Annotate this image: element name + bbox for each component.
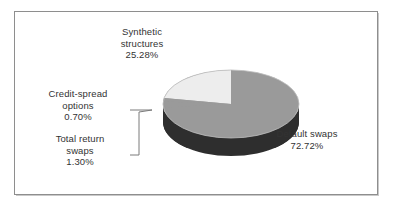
slice-label-total-return-swaps: Total return swaps 1.30% — [28, 133, 132, 168]
slice-label-line: options — [24, 100, 132, 112]
slice-label-line: swaps — [28, 145, 132, 157]
slice-label-credit-spread-options: Credit-spread options 0.70% — [24, 88, 132, 123]
slice-value-label: 25.28% — [88, 49, 196, 61]
slice-label-line: Synthetic — [88, 26, 196, 38]
slice-value-label: 72.72% — [252, 140, 362, 152]
slice-value-label: 1.30% — [28, 156, 132, 168]
slice-label-line: structures — [88, 38, 196, 50]
slice-label-synthetic-structures: Synthetic structures 25.28% — [88, 26, 196, 61]
slice-label-line: Total return — [28, 133, 132, 145]
slice-label-line: Credit-spread — [24, 88, 132, 100]
slice-label-default-swaps: Default swaps 72.72% — [252, 128, 362, 151]
slice-label-line: Default swaps — [252, 128, 362, 140]
pie-chart-figure: Synthetic structures 25.28% Credit-sprea… — [0, 0, 394, 214]
pie-slice-synthetic-structures — [164, 70, 231, 104]
slice-value-label: 0.70% — [24, 111, 132, 123]
